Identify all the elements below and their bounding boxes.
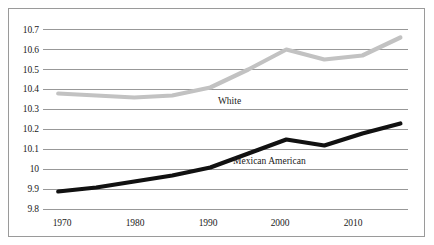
- y-tick-label-10-2: 10.2: [13, 124, 39, 134]
- y-tick-label-10-5: 10.5: [13, 65, 39, 75]
- series-label-mexican-american: Mexican American: [233, 156, 306, 166]
- y-tick-label-10-7: 10.7: [13, 25, 39, 35]
- y-tick-label-9-8: 9.8: [13, 204, 39, 214]
- series-line-mexican-american: [58, 124, 400, 192]
- y-tick-label-10-4: 10.4: [13, 84, 39, 94]
- series-line-white: [58, 38, 400, 98]
- chart-plot-area: [0, 0, 434, 245]
- y-tick-label-10: 10: [13, 164, 39, 174]
- y-tick-label-9-9: 9.9: [13, 184, 39, 194]
- chart-figure: 10.7 10.6 10.5 10.4 10.3 10.2 10.1 10 9.…: [0, 0, 434, 245]
- y-tick-label-10-1: 10.1: [13, 144, 39, 154]
- x-tick-label-1970: 1970: [42, 218, 82, 228]
- y-tick-label-10-6: 10.6: [13, 45, 39, 55]
- series-label-white: White: [218, 96, 241, 106]
- x-tick-label-2010: 2010: [333, 218, 373, 228]
- y-tick-label-10-3: 10.3: [13, 104, 39, 114]
- x-tick-label-2000: 2000: [260, 218, 300, 228]
- x-tick-label-1990: 1990: [188, 218, 228, 228]
- x-tick-label-1980: 1980: [115, 218, 155, 228]
- series-lines-group: [58, 38, 400, 192]
